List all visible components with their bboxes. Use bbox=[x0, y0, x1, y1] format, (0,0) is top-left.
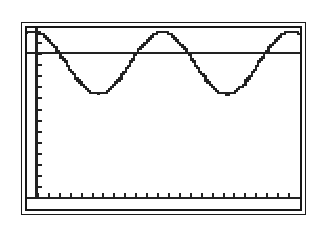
screenshot-root bbox=[0, 0, 324, 235]
calculator-screen-bezel bbox=[21, 22, 306, 215]
plot-viewport[interactable] bbox=[25, 26, 302, 211]
plot-svg bbox=[27, 28, 300, 209]
series-group bbox=[27, 32, 300, 95]
series-sinusoid bbox=[27, 32, 300, 95]
